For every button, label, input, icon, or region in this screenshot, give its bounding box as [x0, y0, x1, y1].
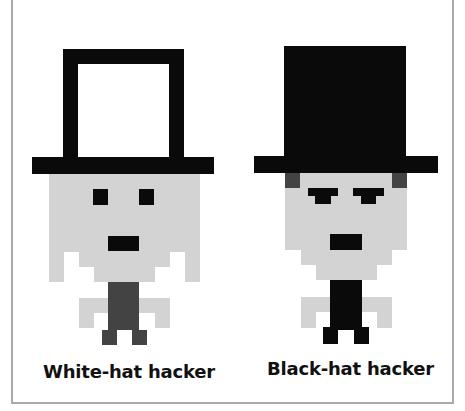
hat-crown [284, 46, 406, 158]
hair-right [392, 173, 407, 188]
black-hat-hacker-figure: Black-hat hacker [0, 0, 465, 411]
face-jaw-2 [316, 265, 377, 280]
mouth [330, 234, 362, 250]
hat-brim [254, 156, 438, 173]
face-jaw-1 [301, 250, 392, 265]
right-hand [377, 312, 392, 328]
left-eye [315, 195, 331, 204]
hair-left [285, 173, 300, 188]
right-eye [361, 195, 376, 204]
black-hat-label: Black-hat hacker [267, 358, 434, 379]
torso [330, 280, 362, 330]
left-hand [301, 312, 316, 328]
left-foot [323, 327, 338, 344]
right-foot [354, 327, 369, 344]
